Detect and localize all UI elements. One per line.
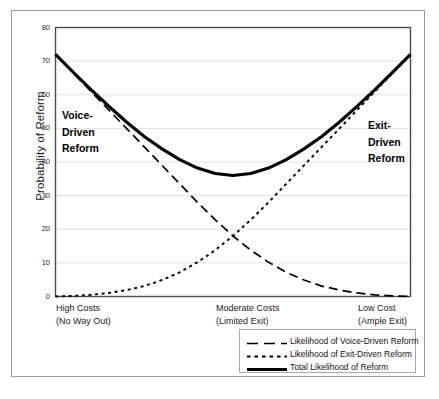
x-tick-label-1: Moderate Costs(Limited Exit): [216, 302, 280, 327]
y-tick-label: 80: [24, 24, 50, 32]
y-tick-label: 60: [24, 91, 50, 99]
legend-label: Likelihood of Exit-Driven Reform: [290, 349, 412, 359]
x-tick-label-line-2: (Ample Exit): [358, 315, 407, 328]
legend-swatch-solid-thick: [246, 361, 288, 372]
annotation-line-1: Voice-: [62, 107, 99, 124]
legend-item: Likelihood of Voice-Driven Reform: [240, 334, 415, 347]
annotation-exit-driven-reform: Exit- Driven Reform: [368, 117, 405, 167]
annotation-line-1: Exit-: [368, 117, 405, 134]
y-tick-label: 40: [24, 158, 50, 166]
legend-item: Likelihood of Exit-Driven Reform: [240, 347, 415, 360]
x-tick-label-2: Low Cost(Ample Exit): [358, 302, 407, 327]
y-tick-label: 20: [24, 225, 50, 233]
y-tick-label: 70: [24, 57, 50, 65]
chart-legend: Likelihood of Voice-Driven ReformLikelih…: [239, 329, 416, 373]
x-tick-label-line-2: (No Way Out): [56, 315, 111, 328]
y-tick-label: 0: [24, 293, 50, 301]
x-tick-label-line-2: (Limited Exit): [216, 315, 280, 328]
series-line-2: [56, 54, 411, 175]
y-tick-label: 10: [24, 259, 50, 267]
x-tick-label-line-1: High Costs: [56, 303, 100, 313]
annotation-line-3: Reform: [368, 150, 405, 167]
y-tick-label: 50: [24, 124, 50, 132]
x-tick-label-0: High Costs(No Way Out): [56, 302, 111, 327]
annotation-voice-driven-reform: Voice- Driven Reform: [62, 107, 99, 157]
chart-figure: Probability of Reform 01020304050607080 …: [0, 0, 439, 399]
legend-swatch-dashed: [246, 335, 288, 346]
legend-label: Likelihood of Voice-Driven Reform: [290, 336, 419, 346]
annotation-line-2: Driven: [62, 124, 99, 141]
y-axis-title: Probability of Reform: [34, 36, 46, 256]
legend-swatch-dotted: [246, 348, 288, 359]
gridlines: [56, 61, 411, 263]
annotation-line-3: Reform: [62, 140, 99, 157]
y-tick-label: 30: [24, 192, 50, 200]
legend-label: Total Likelihood of Reform: [290, 362, 388, 372]
legend-item: Total Likelihood of Reform: [240, 360, 415, 373]
x-tick-label-line-1: Low Cost: [358, 303, 396, 313]
data-series-layer: [56, 54, 411, 296]
x-tick-label-line-1: Moderate Costs: [216, 303, 280, 313]
annotation-line-2: Driven: [368, 134, 405, 151]
